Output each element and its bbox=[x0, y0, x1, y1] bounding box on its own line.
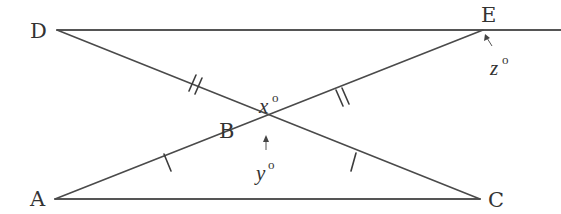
angle-x-var: x bbox=[258, 94, 269, 118]
geometry-diagram: D E A C B x o y o z o bbox=[0, 0, 561, 214]
angle-y-var: y bbox=[254, 161, 266, 185]
angle-label-z: z o bbox=[489, 52, 509, 80]
label-point-e: E bbox=[481, 3, 496, 27]
angle-z-var: z bbox=[489, 56, 498, 80]
angle-label-x: x o bbox=[258, 90, 279, 118]
angle-z-degree: o bbox=[502, 52, 509, 67]
single-tick-bc bbox=[351, 153, 356, 171]
single-tick-ab bbox=[164, 154, 171, 171]
angle-label-y: y o bbox=[254, 157, 275, 185]
label-point-c: C bbox=[488, 188, 504, 212]
angle-y-degree: o bbox=[268, 157, 275, 172]
angle-x-degree: o bbox=[272, 90, 279, 105]
label-point-a: A bbox=[29, 187, 46, 211]
label-point-d: D bbox=[30, 19, 47, 43]
arrow-y-icon bbox=[263, 135, 269, 150]
arrow-z-icon bbox=[484, 34, 492, 46]
label-point-b: B bbox=[219, 119, 234, 143]
double-tick-be bbox=[336, 88, 349, 106]
